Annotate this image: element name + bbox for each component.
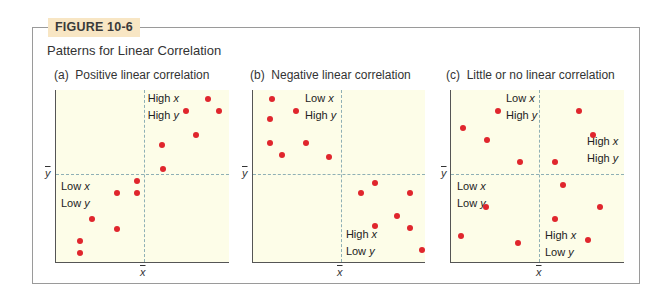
data-point	[576, 108, 582, 114]
data-point	[77, 238, 83, 244]
data-point	[585, 237, 591, 243]
data-point	[407, 225, 413, 231]
quadrant-label-high-high: High x High y	[148, 90, 179, 124]
data-point	[269, 96, 275, 102]
data-point	[159, 142, 165, 148]
data-point	[515, 240, 521, 246]
data-point	[293, 108, 299, 114]
data-point	[517, 159, 523, 165]
data-point	[484, 137, 490, 143]
data-point	[419, 247, 425, 253]
data-point	[267, 140, 273, 146]
x-mean-line	[539, 90, 540, 262]
data-point	[89, 216, 95, 222]
figure-title: Patterns for Linear Correlation	[47, 43, 221, 58]
data-point	[134, 190, 140, 196]
quadrant-label-low-low: Low x Low y	[61, 178, 90, 212]
data-point	[193, 132, 199, 138]
panel-a-title: (a) Positive linear correlation	[54, 68, 209, 82]
data-point	[590, 132, 596, 138]
data-point	[326, 154, 332, 160]
data-point	[216, 108, 222, 114]
data-point	[372, 223, 378, 229]
panel-a-plot: High x High y Low x Low y	[55, 90, 229, 263]
figure-badge: FIGURE 10-6	[48, 18, 140, 37]
data-point	[458, 233, 464, 239]
data-point	[303, 140, 309, 146]
panel-b-y-mean-label: y	[242, 167, 248, 179]
panel-a-x-mean-label: x	[140, 266, 146, 278]
data-point	[372, 180, 378, 186]
panel-a-y-mean-label: y	[45, 167, 51, 179]
data-point	[483, 204, 489, 210]
data-point	[160, 166, 166, 172]
data-point	[407, 190, 413, 196]
data-point	[560, 182, 566, 188]
quadrant-label-high-low: High x Low y	[346, 226, 377, 260]
panel-b-title: (b) Negative linear correlation	[250, 68, 411, 82]
data-point	[394, 213, 400, 219]
panel-c-title: (c) Little or no linear correlation	[446, 68, 615, 82]
panel-b-plot: Low x High y High x Low y	[252, 90, 425, 263]
panel-b-x-mean-label: x	[337, 266, 343, 278]
data-point	[358, 190, 364, 196]
data-point	[134, 178, 140, 184]
quadrant-label-low-high: Low x High y	[506, 90, 537, 124]
data-point	[114, 190, 120, 196]
panel-c-plot: Low x High y High x High y Low x Low y H…	[450, 90, 624, 263]
x-mean-line	[144, 90, 145, 262]
data-point	[552, 216, 558, 222]
quadrant-label-high-low: High x Low y	[545, 227, 576, 261]
data-point	[183, 108, 189, 114]
y-mean-line	[56, 174, 229, 175]
panel-c-x-mean-label: x	[536, 266, 542, 278]
data-point	[495, 108, 501, 114]
data-point	[460, 125, 466, 131]
x-mean-line	[341, 90, 342, 262]
data-point	[279, 152, 285, 158]
quadrant-label-high-high: High x High y	[587, 133, 618, 167]
quadrant-label-low-low: Low x Low y	[457, 178, 486, 212]
panel-c-y-mean-label: y	[441, 167, 447, 179]
data-point	[552, 159, 558, 165]
data-point	[597, 204, 603, 210]
y-mean-line	[451, 174, 624, 175]
quadrant-label-low-high: Low x High y	[305, 90, 336, 124]
y-mean-line	[253, 174, 425, 175]
data-point	[205, 96, 211, 102]
data-point	[77, 250, 83, 256]
data-point	[114, 226, 120, 232]
data-point	[267, 116, 273, 122]
